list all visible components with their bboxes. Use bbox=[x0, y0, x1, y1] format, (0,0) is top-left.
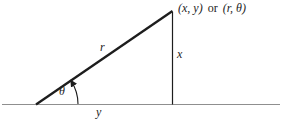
angle-arc bbox=[71, 81, 78, 104]
hypotenuse-label: r bbox=[100, 40, 105, 54]
triangle-diagram: (x, y) or (r, θ) r θ x y bbox=[0, 0, 281, 123]
hypotenuse-line bbox=[36, 11, 173, 105]
angle-label: θ bbox=[59, 84, 65, 98]
point-label-rtheta: (r, θ) bbox=[223, 1, 246, 15]
point-label-xy: (x, y) bbox=[178, 1, 203, 15]
diagram-svg: (x, y) or (r, θ) r θ x y bbox=[0, 0, 281, 123]
vertical-side-label: x bbox=[176, 47, 183, 61]
point-label-or: or bbox=[208, 1, 218, 15]
horizontal-side-label: y bbox=[95, 105, 102, 119]
point-label: (x, y) or (r, θ) bbox=[178, 1, 246, 15]
